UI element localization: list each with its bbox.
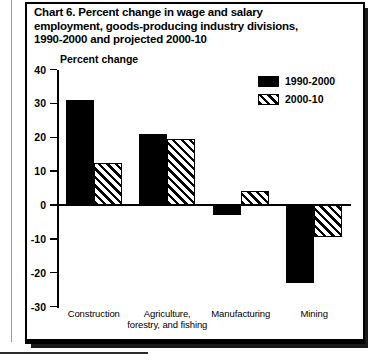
chart-legend: 1990-20002000-10 (258, 73, 335, 109)
legend-label: 2000-10 (285, 93, 324, 105)
bar-series1 (286, 205, 314, 283)
bar-series2 (241, 191, 269, 205)
y-axis-title: Percent change (60, 53, 138, 65)
y-tick-label: -20 (16, 268, 46, 278)
category-label-line: forestry, and fishing (112, 320, 222, 331)
plot-area: Percent change 403020100-10-20-30 Constr… (0, 0, 370, 361)
y-tick-mark (50, 170, 57, 172)
legend-item: 2000-10 (258, 91, 335, 107)
y-tick-label: 40 (16, 65, 46, 75)
y-tick-mark (50, 238, 57, 240)
y-tick-label: 10 (16, 166, 46, 176)
footnote-rule (0, 352, 148, 354)
bar-series1 (139, 134, 167, 205)
y-tick-label: -10 (16, 234, 46, 244)
legend-label: 1990-2000 (285, 75, 335, 87)
y-tick-mark (50, 272, 57, 274)
y-tick-label: 0 (16, 200, 46, 210)
legend-swatch-hatch (258, 94, 279, 105)
bar-series1 (213, 205, 241, 215)
y-tick-mark (50, 306, 57, 308)
y-tick-mark (50, 69, 57, 71)
y-tick-label: 20 (16, 132, 46, 142)
y-tick-mark (50, 137, 57, 139)
legend-swatch-solid (258, 76, 279, 87)
category-label-line: Mining (259, 309, 369, 320)
y-axis-line (57, 70, 59, 308)
bar-series1 (66, 100, 94, 205)
bar-series2 (94, 163, 122, 205)
bar-series2 (167, 139, 195, 205)
legend-item: 1990-2000 (258, 73, 335, 89)
y-tick-label: 30 (16, 98, 46, 108)
category-label: Mining (259, 309, 369, 320)
y-tick-mark (50, 103, 57, 105)
y-tick-mark (50, 204, 57, 206)
bar-series2 (314, 205, 342, 237)
